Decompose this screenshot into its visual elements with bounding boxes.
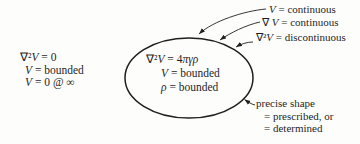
interior-condition-rho-bounded: ρ = bounded (161, 80, 220, 94)
leader-line-grad-v-continuous (220, 22, 260, 40)
nabla-squared-symbol: ∇² (20, 51, 31, 63)
label-v-continuous: V = continuous (269, 3, 336, 15)
exterior-condition-infinity: V = 0 @ ∞ (25, 76, 84, 89)
label-laplacian-v-discontinuous: ∇²V = discontinuous (256, 31, 346, 43)
precise-shape-title: precise shape (256, 97, 333, 110)
precise-shape-note: precise shape = prescribed, or = determi… (256, 97, 333, 135)
interior-conditions: ∇²V = 4πγρ V = bounded ρ = bounded (146, 52, 220, 94)
nabla-symbol: ∇ (262, 16, 272, 28)
interior-condition-v-bounded: V = bounded (161, 66, 220, 80)
leader-line-laplacian-v-discontinuous (236, 42, 253, 47)
precise-shape-determined: = determined (264, 122, 333, 135)
exterior-condition-bounded: V = bounded (25, 64, 84, 77)
exterior-conditions: ∇²V = 0 V = bounded V = 0 @ ∞ (20, 51, 84, 89)
nabla-squared-symbol: ∇² (146, 53, 157, 65)
leader-line-precise-shape (245, 100, 256, 106)
interior-equation-poisson: ∇²V = 4πγρ (146, 52, 220, 66)
potential-theory-figure: ∇²V = 0 V = bounded V = 0 @ ∞ ∇²V = 4πγρ… (0, 0, 360, 144)
precise-shape-prescribed: = prescribed, or (264, 110, 333, 123)
label-grad-v-continuous: ∇ V = continuous (262, 16, 338, 28)
exterior-equation-laplace: ∇²V = 0 (20, 51, 84, 64)
nabla-squared-symbol: ∇² (256, 31, 266, 43)
